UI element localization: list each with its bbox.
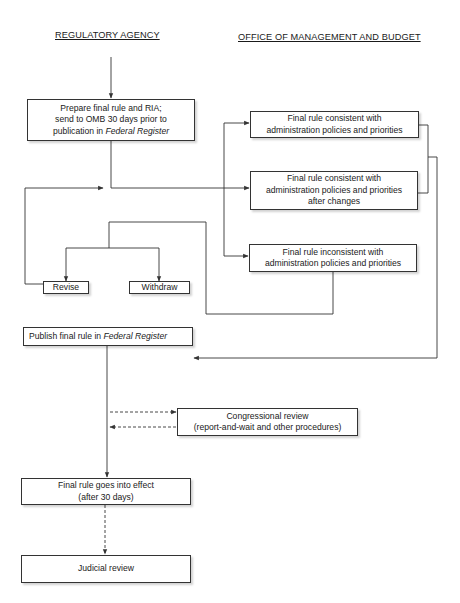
consistent-line-1: Final rule consistent with xyxy=(287,113,381,125)
judicial-label: Judicial review xyxy=(78,563,134,575)
after-changes-line-3: after changes xyxy=(308,196,360,208)
revise-label: Revise xyxy=(53,282,79,294)
publish-box: Publish final rule in Federal Register xyxy=(23,327,193,346)
congressional-review-box: Congressional review (report-and-wait an… xyxy=(177,408,358,436)
inconsistent-box: Final rule inconsistent with administrat… xyxy=(249,244,417,272)
to-consistent-arrow xyxy=(224,123,249,188)
final-rule-effect-box: Final rule goes into effect (after 30 da… xyxy=(21,478,191,505)
consistent-after-changes-box: Final rule consistent with administratio… xyxy=(250,171,418,210)
regulatory-agency-header: REGULATORY AGENCY xyxy=(55,30,160,40)
congressional-line-2: (report-and-wait and other procedures) xyxy=(194,422,342,434)
revise-box: Revise xyxy=(43,281,89,294)
prepare-line-1: Prepare final rule and RIA; xyxy=(60,103,161,115)
omb-header: OFFICE OF MANAGEMENT AND BUDGET xyxy=(238,32,421,42)
consistent-box: Final rule consistent with administratio… xyxy=(250,111,419,138)
inconsistent-line-2: administration policies and priorities xyxy=(265,258,401,270)
consistent-line-2: administration policies and priorities xyxy=(266,125,402,137)
consistent-merge-line xyxy=(418,125,428,193)
after-changes-line-1: Final rule consistent with xyxy=(287,173,381,185)
congressional-line-1: Congressional review xyxy=(226,411,308,423)
to-withdraw-arrow xyxy=(109,248,159,281)
withdraw-box: Withdraw xyxy=(129,281,190,294)
effect-line-1: Final rule goes into effect xyxy=(58,480,154,492)
prepare-line-3: publication in Federal Register xyxy=(53,126,169,138)
connector-lines xyxy=(0,0,460,603)
effect-line-2: (after 30 days) xyxy=(78,492,133,504)
after-changes-line-2: administration policies and priorities xyxy=(266,185,402,197)
publish-label: Publish final rule in Federal Register xyxy=(29,331,167,343)
prepare-final-rule-box: Prepare final rule and RIA; send to OMB … xyxy=(27,99,195,141)
prepare-line-2: send to OMB 30 days prior to xyxy=(55,114,167,126)
inconsistent-line-1: Final rule inconsistent with xyxy=(283,247,384,259)
withdraw-label: Withdraw xyxy=(142,282,178,294)
revise-loop-arrow xyxy=(25,188,103,284)
to-revise-arrow xyxy=(66,248,109,281)
judicial-review-box: Judicial review xyxy=(21,555,191,583)
to-inconsistent-arrow xyxy=(224,188,248,256)
